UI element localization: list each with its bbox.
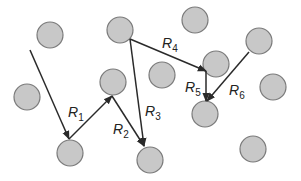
label-letter: R — [145, 103, 155, 119]
node-circle — [149, 62, 175, 88]
node-circle — [14, 84, 40, 110]
node-circle — [260, 74, 286, 100]
label-subscript: 3 — [155, 111, 161, 122]
node-circle — [137, 147, 163, 173]
node-circle — [192, 101, 218, 127]
node-circle — [246, 28, 272, 54]
node-circle — [182, 7, 208, 33]
diagram-svg: R1R2R3R4R5R6 — [0, 0, 301, 181]
label-letter: R — [113, 121, 123, 137]
edge-label-r3: R3 — [145, 103, 161, 122]
node-circle — [107, 17, 133, 43]
edge-label-r2: R2 — [113, 121, 129, 140]
edge-label-r4: R4 — [162, 35, 178, 54]
label-letter: R — [185, 79, 195, 95]
label-subscript: 5 — [195, 87, 201, 98]
label-letter: R — [162, 35, 172, 51]
edge-label-r1: R1 — [68, 104, 84, 123]
node-circle — [57, 140, 83, 166]
label-subscript: 6 — [239, 90, 245, 101]
label-letter: R — [229, 82, 239, 98]
label-subscript: 4 — [172, 43, 178, 54]
node-circle — [100, 69, 126, 95]
label-subscript: 1 — [78, 112, 84, 123]
edge-label-r5: R5 — [185, 79, 201, 98]
diagram-canvas: R1R2R3R4R5R6 — [0, 0, 301, 181]
edge-label-r6: R6 — [229, 82, 245, 101]
node-circle — [203, 51, 229, 77]
node-circle — [37, 22, 63, 48]
node-circle — [240, 136, 266, 162]
edge-arrow-r3 — [130, 39, 144, 146]
label-letter: R — [68, 104, 78, 120]
node-group — [14, 7, 286, 173]
label-subscript: 2 — [123, 129, 129, 140]
